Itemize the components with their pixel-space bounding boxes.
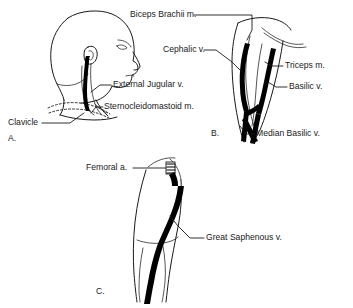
basilic-vein [256, 48, 276, 115]
label-basilic-vein: Basilic v. [289, 81, 322, 91]
leader-cephalic [204, 50, 242, 72]
shoulder-deltoid-contour [238, 18, 291, 30]
label-triceps-muscle: Triceps m. [285, 60, 325, 70]
anatomy-figure: External Jugular v. Sternocleidomastoid … [0, 0, 353, 308]
panel-letter-c: C. [96, 286, 105, 296]
mouth-line [126, 75, 134, 76]
leader-biceps-brachii [194, 15, 252, 40]
panel-c-leg: Femoral a. Great Saphenous v. C. [86, 158, 282, 304]
leader-external-jugular [91, 85, 111, 92]
label-great-saphenous-vein: Great Saphenous v. [206, 232, 282, 242]
label-cephalic-vein: Cephalic v. [163, 44, 205, 54]
ear-inner-detail [89, 51, 93, 60]
leader-great-saphenous [170, 216, 204, 238]
panel-letter-b: B. [211, 128, 219, 138]
knee-crease [137, 237, 178, 243]
femoral-artery [166, 162, 175, 174]
leader-basilic [268, 82, 287, 87]
neck-posterior-outline [60, 100, 64, 115]
great-saphenous-vein [144, 186, 184, 304]
shin-contour [139, 248, 143, 302]
label-biceps-brachii-muscle: Biceps Brachii m. [130, 9, 196, 19]
label-clavicle: Clavicle [8, 117, 38, 127]
label-sternocleidomastoid-muscle: Sternocleidomastoid m. [104, 101, 194, 111]
calf-inner-contour [162, 246, 165, 302]
panel-a-head-and-neck: External Jugular v. Sternocleidomastoid … [8, 11, 194, 143]
label-femoral-artery: Femoral a. [86, 162, 127, 172]
axillary-fold-2 [264, 33, 306, 48]
eye [117, 45, 127, 49]
label-external-jugular-vein: External Jugular v. [113, 79, 184, 89]
head-cranium-outline [68, 11, 138, 88]
label-median-basilic-vein: Median Basilic v. [256, 128, 320, 138]
panel-b-upper-arm: Biceps Brachii m. Cephalic v. Triceps m.… [130, 9, 325, 144]
panel-letter-a: A. [8, 133, 16, 143]
figure-canvas: External Jugular v. Sternocleidomastoid … [0, 0, 353, 308]
head-occiput-outline [51, 18, 68, 100]
leader-clavicle [42, 113, 84, 123]
leg-lateral-border [133, 170, 146, 302]
